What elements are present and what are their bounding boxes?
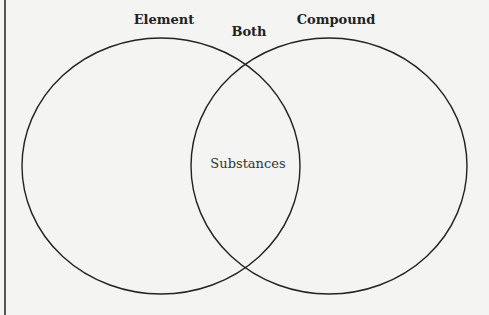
both-label: Both (231, 24, 266, 39)
substances-label: Substances (210, 156, 285, 171)
element-label: Element (134, 12, 195, 27)
compound-label: Compound (297, 12, 376, 27)
